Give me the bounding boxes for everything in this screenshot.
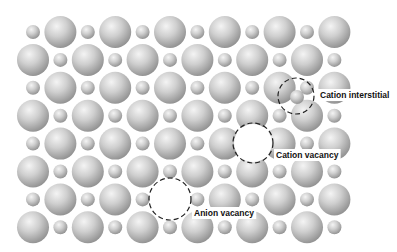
- anion-ion: [291, 211, 323, 243]
- anion-ion: [154, 72, 186, 104]
- cation-ion: [26, 25, 40, 39]
- cation-ion: [273, 53, 287, 67]
- cation-ion: [245, 192, 259, 206]
- anion-ion: [99, 72, 131, 104]
- anion-ion: [154, 128, 186, 160]
- anion-ion: [44, 128, 76, 160]
- cation-ion: [190, 81, 204, 95]
- cation-ion: [300, 137, 314, 151]
- anion-ion: [72, 100, 104, 132]
- cation-ion: [26, 137, 40, 151]
- anion-ion: [318, 183, 350, 215]
- cation-ion: [108, 165, 122, 179]
- anion-ion: [127, 211, 159, 243]
- cation-ion: [218, 109, 232, 123]
- cation-ion: [327, 109, 341, 123]
- cation-ion: [327, 220, 341, 234]
- cation-ion: [163, 165, 177, 179]
- anion-ion: [44, 16, 76, 48]
- vacancy-space: [150, 179, 190, 219]
- anion-ion: [127, 100, 159, 132]
- cation-ion: [190, 25, 204, 39]
- cation-ion: [273, 165, 287, 179]
- anion-ion: [44, 183, 76, 215]
- anion-ion: [17, 156, 49, 188]
- cation-ion: [190, 192, 204, 206]
- cation-ion: [136, 25, 150, 39]
- cation-ion: [108, 53, 122, 67]
- cation-ion: [136, 192, 150, 206]
- cation-ion: [218, 53, 232, 67]
- cation-ion: [218, 165, 232, 179]
- cation-ion: [300, 25, 314, 39]
- cation-ion: [26, 81, 40, 95]
- anion-ion: [99, 16, 131, 48]
- anion-ion: [181, 100, 213, 132]
- interstitial-cation-ion: [290, 90, 304, 104]
- vacancy-space: [234, 124, 272, 162]
- cation-interstitial-label: Cation interstitial: [320, 90, 389, 100]
- cation-ion: [26, 192, 40, 206]
- cation-ion: [163, 220, 177, 234]
- anion-ion: [44, 72, 76, 104]
- cation-ion: [245, 81, 259, 95]
- anion-ion: [154, 16, 186, 48]
- ionic-crystal-defect-diagram: Cation interstitialCation vacancyAnion v…: [0, 0, 397, 252]
- anion-ion: [127, 156, 159, 188]
- cation-ion: [190, 137, 204, 151]
- anion-ion: [209, 16, 241, 48]
- anion-ion: [236, 44, 268, 76]
- cation-ion: [53, 165, 67, 179]
- cation-ion: [53, 109, 67, 123]
- anion-ion: [99, 128, 131, 160]
- anion-ion: [181, 44, 213, 76]
- cation-ion: [300, 192, 314, 206]
- cation-ion: [136, 81, 150, 95]
- anion-ion: [291, 100, 323, 132]
- anion-ion: [99, 183, 131, 215]
- cation-ion: [53, 53, 67, 67]
- anion-vacancy-label: Anion vacancy: [194, 208, 254, 218]
- cation-ion: [163, 109, 177, 123]
- cation-ion: [81, 192, 95, 206]
- cation-ion: [108, 109, 122, 123]
- anion-ion: [17, 100, 49, 132]
- cation-ion: [81, 137, 95, 151]
- cation-ion: [327, 165, 341, 179]
- cation-ion: [81, 25, 95, 39]
- cation-ion: [218, 220, 232, 234]
- anion-ion: [318, 16, 350, 48]
- cation-ion: [136, 137, 150, 151]
- cation-ion: [245, 25, 259, 39]
- cation-vacancy-label: Cation vacancy: [276, 150, 339, 160]
- cation-ion: [108, 220, 122, 234]
- anion-ion: [264, 183, 296, 215]
- anion-ion: [72, 211, 104, 243]
- anion-ion: [17, 211, 49, 243]
- anion-ion: [209, 72, 241, 104]
- cation-ion: [53, 220, 67, 234]
- anion-ion: [72, 156, 104, 188]
- anion-ion: [72, 44, 104, 76]
- anion-ion: [127, 44, 159, 76]
- anion-ion: [181, 156, 213, 188]
- cation-ion: [163, 53, 177, 67]
- cation-ion: [81, 81, 95, 95]
- anion-ion: [17, 44, 49, 76]
- cation-ion: [327, 53, 341, 67]
- anion-ion: [291, 44, 323, 76]
- cation-ion: [273, 220, 287, 234]
- cation-ion: [273, 109, 287, 123]
- anion-ion: [264, 16, 296, 48]
